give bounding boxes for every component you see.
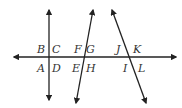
- angle-label-g: G: [86, 43, 95, 56]
- angle-label-f: F: [73, 43, 82, 56]
- angle-label-h: H: [85, 62, 96, 75]
- angle-label-k: K: [132, 43, 142, 56]
- angle-diagram: BCADFGEHJKIL: [0, 0, 182, 108]
- angle-label-b: B: [36, 43, 45, 56]
- angle-label-a: A: [36, 62, 45, 75]
- angle-label-j: J: [114, 43, 121, 56]
- angle-label-d: D: [51, 62, 61, 75]
- angle-label-l: L: [137, 62, 145, 75]
- angle-label-i: I: [122, 62, 128, 75]
- angle-label-e: E: [71, 62, 80, 75]
- angle-label-c: C: [52, 43, 61, 56]
